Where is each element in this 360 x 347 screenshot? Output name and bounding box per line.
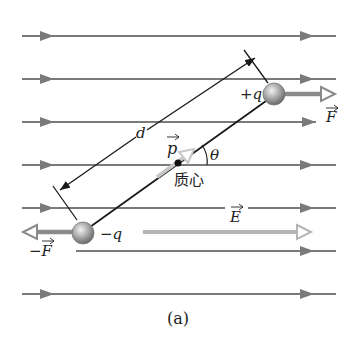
svg-text:p: p	[167, 139, 177, 158]
field-label: E	[229, 204, 243, 226]
angle-arc	[202, 145, 207, 165]
negative-charge-ball	[72, 222, 94, 244]
svg-text:F: F	[325, 108, 337, 126]
force-arrow-negative	[23, 225, 74, 239]
d-tick-bottom	[53, 186, 77, 220]
force-label: F	[325, 105, 338, 126]
d-arrow-down	[60, 137, 136, 190]
field-line	[22, 289, 336, 299]
figure-caption: (a)	[167, 309, 189, 328]
field-line	[22, 74, 336, 84]
electric-dipole-diagram: +q −q F −F p E θ d 质心 (a)	[0, 0, 360, 347]
dipole-moment-label: p	[167, 134, 179, 158]
angle-label: θ	[210, 146, 219, 164]
center-of-mass-dot	[175, 160, 182, 167]
positive-charge-label: +q	[240, 85, 262, 103]
force-arrow-positive	[284, 87, 335, 101]
field-line	[76, 246, 336, 256]
separation-dimension	[53, 50, 268, 220]
negative-charge-label: −q	[100, 225, 122, 243]
positive-charge-ball	[263, 83, 285, 105]
svg-text:E: E	[229, 208, 241, 226]
negative-force-label: −F	[29, 238, 54, 260]
field-line	[22, 117, 316, 127]
e-field-arrow	[143, 225, 311, 239]
field-line	[22, 31, 336, 41]
center-of-mass-label: 质心	[174, 171, 204, 189]
d-arrow-up	[147, 58, 255, 130]
separation-label: d	[136, 124, 146, 142]
svg-text:−F: −F	[29, 242, 53, 260]
